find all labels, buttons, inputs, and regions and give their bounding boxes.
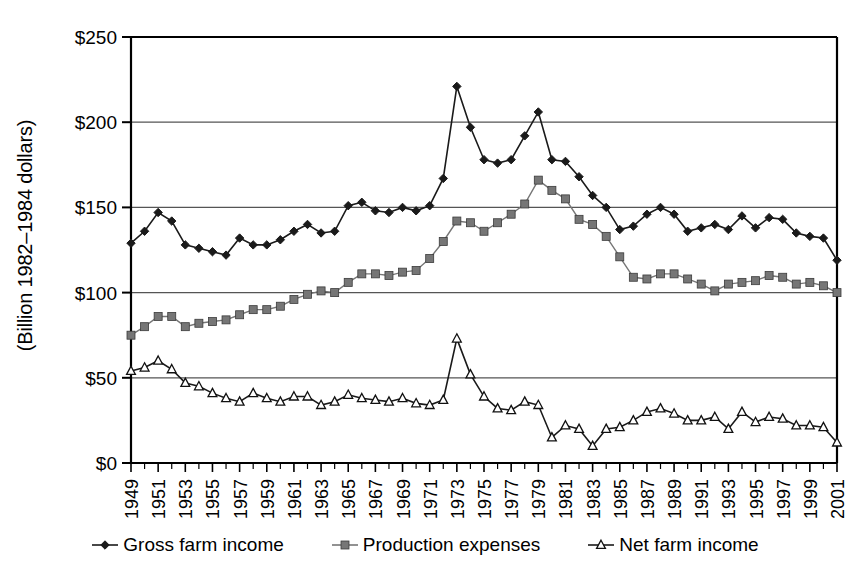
legend-item-2[interactable]: Net farm income	[586, 535, 758, 554]
x-axis-tick-label: 1993	[719, 479, 739, 519]
data-point-marker	[738, 278, 746, 286]
data-point-marker	[263, 241, 271, 249]
data-point-marker	[466, 370, 475, 378]
y-axis-tick-label: $50	[85, 368, 117, 389]
data-point-marker	[738, 407, 747, 415]
data-point-marker	[819, 282, 827, 290]
data-point-marker	[208, 248, 216, 256]
x-axis-tick-label: 1987	[638, 479, 658, 519]
data-point-marker	[629, 273, 637, 281]
data-point-marker	[684, 275, 692, 283]
data-point-marker	[358, 270, 366, 278]
x-axis-tick-label: 1965	[339, 479, 359, 519]
data-point-marker	[657, 270, 665, 278]
y-axis-tick-label: $200	[75, 112, 117, 133]
x-axis-tick-label: 1975	[475, 479, 495, 519]
data-point-marker	[249, 306, 257, 314]
data-point-marker	[670, 270, 678, 278]
data-point-marker	[656, 404, 665, 412]
data-point-marker	[493, 159, 501, 167]
x-axis-tick-label: 1955	[203, 479, 223, 519]
x-axis-tick-label: 1961	[285, 479, 305, 519]
legend-item-label: Gross farm income	[123, 535, 283, 554]
y-axis-tick-label: $100	[75, 283, 117, 304]
x-axis-tick-label: 1967	[366, 479, 386, 519]
data-point-marker	[439, 237, 447, 245]
x-axis-tick-label: 1995	[747, 479, 767, 519]
data-point-marker	[507, 210, 515, 218]
data-point-marker	[425, 201, 433, 209]
data-point-marker	[616, 253, 624, 261]
y-axis-tick-label: $250	[75, 27, 117, 48]
data-point-marker	[154, 356, 163, 364]
data-point-marker	[765, 412, 774, 420]
x-axis-tick-label: 2001	[828, 479, 848, 519]
data-point-marker	[208, 318, 216, 326]
x-axis-tick-label: 1985	[611, 479, 631, 519]
data-point-marker	[181, 241, 189, 249]
legend-item-1[interactable]: Production expenses	[330, 535, 540, 554]
legend-item-0[interactable]: Gross farm income	[90, 535, 283, 554]
data-point-marker	[507, 155, 515, 163]
data-point-marker	[412, 266, 420, 274]
data-point-marker	[602, 232, 610, 240]
y-axis-label: (Billion 1982–1984 dollars)	[15, 119, 38, 350]
data-point-marker	[195, 319, 203, 327]
data-point-marker	[263, 306, 271, 314]
data-point-marker	[453, 82, 461, 90]
data-point-marker	[643, 275, 651, 283]
data-point-marker	[236, 311, 244, 319]
y-axis-tick-label: $150	[75, 197, 117, 218]
data-point-marker	[303, 220, 311, 228]
data-point-marker	[616, 225, 624, 233]
legend-item-label: Production expenses	[363, 535, 540, 554]
data-point-marker	[222, 316, 230, 324]
data-point-marker	[439, 395, 448, 403]
data-point-marker	[480, 227, 488, 235]
square-marker-icon	[330, 537, 360, 553]
data-point-marker	[141, 323, 149, 331]
data-point-marker	[249, 388, 258, 396]
data-point-marker	[561, 195, 569, 203]
data-point-marker	[806, 278, 814, 286]
data-point-marker	[385, 272, 393, 280]
data-point-marker	[792, 280, 800, 288]
data-point-marker	[629, 416, 638, 424]
data-point-marker	[358, 198, 366, 206]
data-point-marker	[304, 290, 312, 298]
x-axis-tick-label: 1991	[692, 479, 712, 519]
data-point-marker	[779, 273, 787, 281]
data-point-marker	[371, 270, 379, 278]
data-point-marker	[439, 174, 447, 182]
data-point-marker	[154, 312, 162, 320]
data-point-marker	[466, 219, 474, 227]
data-point-marker	[819, 234, 827, 242]
chart-plot-area: $0$50$100$150$200$2501949195119531955195…	[0, 0, 849, 535]
x-axis-tick-label: 1951	[149, 479, 169, 519]
data-point-marker	[480, 155, 488, 163]
data-point-marker	[127, 331, 135, 339]
x-axis-tick-label: 1963	[312, 479, 332, 519]
x-axis-tick-label: 1989	[665, 479, 685, 519]
data-point-marker	[833, 289, 841, 297]
data-point-marker	[330, 227, 338, 235]
data-point-marker	[344, 201, 352, 209]
data-point-marker	[561, 421, 570, 429]
data-point-marker	[520, 397, 529, 405]
y-axis-label-wrapper: (Billion 1982–1984 dollars)	[6, 0, 46, 470]
x-axis-tick-label: 1983	[584, 479, 604, 519]
data-point-marker	[548, 155, 556, 163]
x-axis-tick-label: 1979	[529, 479, 549, 519]
data-point-marker	[548, 186, 556, 194]
data-point-marker	[534, 108, 542, 116]
data-point-marker	[344, 278, 352, 286]
x-axis-tick-label: 1957	[231, 479, 251, 519]
data-point-marker	[589, 220, 597, 228]
data-point-marker	[521, 132, 529, 140]
data-point-marker	[385, 208, 393, 216]
data-point-marker	[344, 390, 353, 398]
data-point-marker	[452, 334, 461, 342]
data-point-marker	[494, 219, 502, 227]
data-point-marker	[181, 323, 189, 331]
data-point-marker	[752, 277, 760, 285]
